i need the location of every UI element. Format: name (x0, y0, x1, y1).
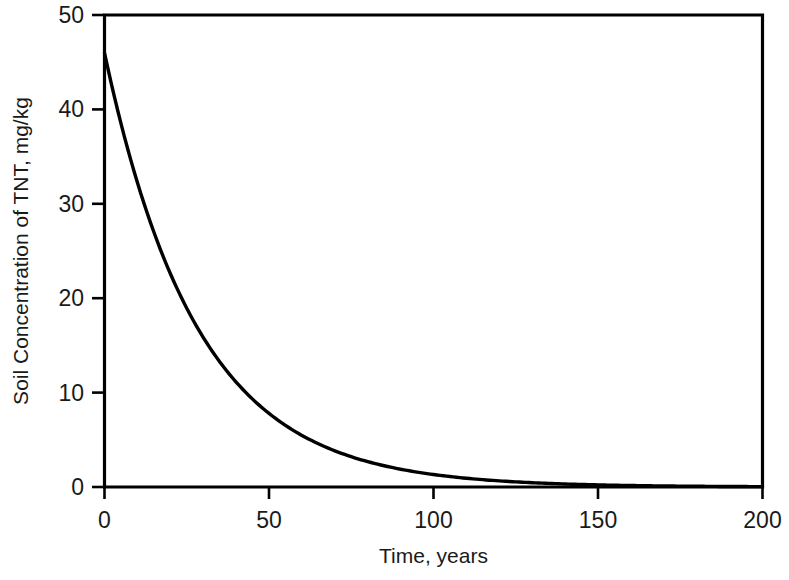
y-axis-tick-labels: 50 40 30 20 10 0 (58, 2, 84, 500)
x-axis-tick-labels: 0 50 100 150 200 (98, 507, 782, 533)
x-tick-label-150: 150 (579, 507, 617, 533)
axis-frame-path (105, 15, 763, 487)
tnt-decay-curve (105, 53, 763, 487)
x-tick-label-100: 100 (414, 507, 452, 533)
x-axis-title: Time, years (379, 544, 488, 567)
tnt-decay-chart: 50 40 30 20 10 0 0 50 100 150 200 Time, … (0, 0, 789, 580)
y-axis-title: Soil Concentration of TNT, mg/kg (9, 97, 32, 405)
y-tick-label-30: 30 (58, 191, 84, 217)
y-axis-ticks (92, 15, 105, 487)
y-tick-label-20: 20 (58, 285, 84, 311)
x-axis-ticks (105, 487, 763, 499)
y-tick-label-40: 40 (58, 96, 84, 122)
chart-page: 50 40 30 20 10 0 0 50 100 150 200 Time, … (0, 0, 789, 580)
y-tick-label-0: 0 (71, 474, 84, 500)
x-tick-label-200: 200 (743, 507, 781, 533)
y-tick-label-50: 50 (58, 2, 84, 28)
y-tick-label-10: 10 (58, 380, 84, 406)
plot-frame (105, 15, 763, 487)
x-tick-label-50: 50 (256, 507, 282, 533)
x-tick-label-0: 0 (98, 507, 111, 533)
